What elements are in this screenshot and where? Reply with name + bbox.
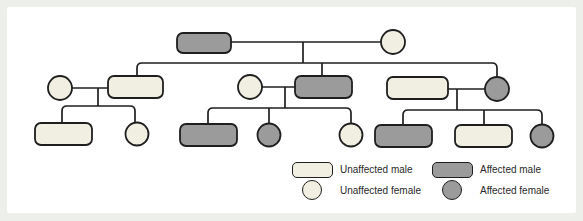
member-III-2-unaffected-female — [126, 123, 149, 146]
legend-unaffected-female-swatch — [302, 180, 322, 200]
legend-affected-male-swatch — [432, 162, 473, 178]
legend-affected-male-label: Affected male — [480, 164, 541, 176]
member-II-3-unaffected-female — [238, 75, 262, 99]
member-III-3-affected-male — [180, 124, 237, 146]
left-sibship-line — [62, 106, 135, 123]
member-I-2-unaffected-female — [381, 30, 405, 54]
legend-unaffected-male-swatch — [292, 162, 333, 178]
member-II-6-affected-female — [485, 77, 509, 101]
member-III-8-affected-female — [531, 125, 554, 148]
member-III-4-affected-female — [258, 124, 281, 147]
member-III-6-affected-male — [375, 125, 432, 147]
member-II-1-unaffected-female — [48, 76, 72, 100]
right-sibship-line — [403, 110, 542, 125]
pedigree-figure: Unaffected male Affected male Unaffected… — [0, 0, 583, 221]
legend-affected-female-swatch — [442, 180, 462, 200]
member-II-4-affected-male — [295, 76, 352, 98]
member-III-7-unaffected-male — [455, 125, 512, 147]
member-III-5-unaffected-female — [340, 124, 363, 147]
member-I-1-affected-male — [177, 33, 231, 53]
legend-unaffected-female-label: Unaffected female — [340, 185, 421, 197]
member-II-2-unaffected-male — [108, 76, 163, 98]
gen2-sibship-line — [137, 63, 497, 77]
member-III-1-unaffected-male — [35, 123, 92, 145]
middle-sibship-line — [208, 108, 351, 124]
legend-affected-female-label: Affected female — [480, 185, 549, 197]
member-II-5-unaffected-male — [387, 77, 448, 99]
legend-unaffected-male-label: Unaffected male — [340, 164, 413, 176]
